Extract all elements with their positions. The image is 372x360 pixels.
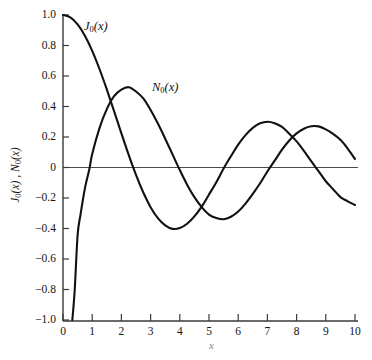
y-tick-label: 0.8	[0, 40, 56, 52]
x-tick-label: 3	[148, 326, 154, 338]
bessel-function-figure: 1.00.80.60.40.20−0.2−0.4−0.6−0.8−1.0 012…	[0, 0, 372, 360]
curve-n0	[72, 87, 355, 320]
y-tick-label: −1.0	[0, 314, 56, 326]
plot-canvas	[0, 0, 372, 360]
axes-group	[63, 14, 358, 321]
x-tick-label: 1	[89, 326, 95, 338]
x-tick-marks	[63, 314, 355, 321]
curve-label-j0-arg: (x)	[94, 19, 108, 33]
y-axis-title-separator: ,	[9, 172, 21, 181]
x-tick-label: 7	[265, 326, 271, 338]
y-axis-title-j-sub: 0	[13, 193, 23, 197]
x-tick-label: 9	[323, 326, 329, 338]
y-tick-label: 0.6	[0, 70, 56, 82]
y-axis-title-n-arg: (x)	[9, 147, 21, 160]
x-tick-label: 2	[119, 326, 125, 338]
curve-label-n0-arg: (x)	[165, 80, 179, 94]
y-tick-label: 1.0	[0, 9, 56, 21]
x-tick-label: 10	[349, 326, 361, 338]
y-tick-label: 0.4	[0, 101, 56, 113]
x-axis-title: x	[209, 339, 214, 351]
y-axis-title-n-sub: 0	[13, 160, 23, 164]
x-tick-label: 6	[235, 326, 241, 338]
x-tick-label: 5	[206, 326, 212, 338]
curve-label-n0: N0(x)	[152, 80, 178, 95]
y-axis-title-j: J	[9, 198, 21, 203]
x-tick-label: 8	[294, 326, 300, 338]
x-tick-label: 0	[60, 326, 66, 338]
y-axis-title: J0(x) , N0(x)	[9, 115, 23, 235]
y-tick-label: −0.8	[0, 284, 56, 296]
curve-j0	[63, 15, 355, 229]
curve-label-j0: J0(x)	[84, 19, 108, 34]
y-tick-label: −0.6	[0, 253, 56, 265]
y-tick-marks	[63, 15, 69, 320]
x-tick-label: 4	[177, 326, 183, 338]
y-axis-title-n: N	[9, 164, 21, 172]
y-axis-title-j-arg: (x)	[9, 181, 21, 194]
